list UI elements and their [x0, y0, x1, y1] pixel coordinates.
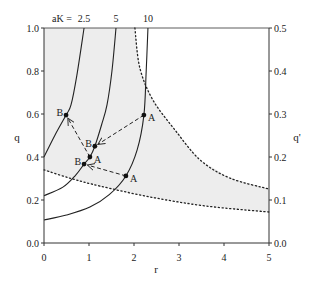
- point-a: [124, 174, 129, 179]
- y-right-tick-label: 0.2: [274, 152, 287, 163]
- x-tick-label: 5: [267, 252, 272, 263]
- x-tick-label: 3: [177, 252, 182, 263]
- point-label: A: [130, 173, 138, 184]
- point-b: [64, 113, 69, 118]
- y-right-tick-label: 0.4: [274, 66, 287, 77]
- point-label: B: [74, 156, 81, 167]
- x-axis-label: r: [154, 263, 158, 275]
- y-tick-label: 0.0: [27, 238, 40, 249]
- series-labels: 2.5510: [78, 13, 153, 24]
- shaded-area: [44, 28, 269, 212]
- point-b: [82, 162, 87, 167]
- y-right-tick-label: 0.5: [274, 23, 287, 34]
- series-label: 5: [114, 13, 119, 24]
- y-right-tick-label: 0.1: [274, 195, 287, 206]
- y-tick-label: 1.0: [27, 23, 40, 34]
- shaded-region: [44, 28, 269, 212]
- chart: BABABA 0123450.00.20.40.60.81.00.00.10.2…: [0, 0, 311, 287]
- point-label: A: [148, 112, 156, 123]
- y-tick-label: 0.4: [27, 152, 40, 163]
- x-tick-label: 4: [222, 252, 227, 263]
- series-label: 2.5: [78, 13, 91, 24]
- point-a: [142, 113, 147, 118]
- point-a: [88, 155, 93, 160]
- series-label: 10: [143, 13, 153, 24]
- y-tick-label: 0.6: [27, 109, 40, 120]
- y-right-tick-label: 0.3: [274, 109, 287, 120]
- x-tick-label: 1: [87, 252, 92, 263]
- y-axis-label-left: q: [14, 131, 20, 143]
- point-label: B: [56, 107, 63, 118]
- point-b: [92, 144, 97, 149]
- series-header: aK =: [52, 13, 72, 24]
- point-label: A: [94, 154, 102, 165]
- x-tick-label: 2: [132, 252, 137, 263]
- x-tick-label: 0: [42, 252, 47, 263]
- y-tick-label: 0.2: [27, 195, 40, 206]
- y-tick-label: 0.8: [27, 66, 40, 77]
- y-axis-label-right: q': [293, 131, 301, 143]
- point-label: B: [85, 138, 92, 149]
- y-right-tick-label: 0.0: [274, 238, 287, 249]
